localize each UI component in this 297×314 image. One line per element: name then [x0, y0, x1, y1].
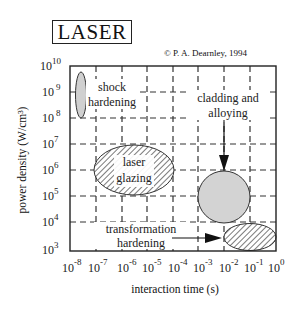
label-transformation: transformation — [106, 222, 177, 236]
region-transformation-hardening — [224, 224, 276, 251]
svg-text:10-6: 10-6 — [117, 257, 137, 275]
svg-text:10-1: 10-1 — [244, 257, 264, 275]
svg-text:109: 109 — [42, 82, 61, 99]
label-hardening-shock: hardening — [88, 95, 136, 109]
svg-text:100: 100 — [268, 257, 285, 275]
label-hardening-transformation: hardening — [117, 236, 165, 250]
svg-text:10-3: 10-3 — [193, 257, 213, 275]
label-cladding: cladding and — [197, 91, 259, 105]
svg-text:1010: 1010 — [40, 56, 62, 73]
svg-text:10-5: 10-5 — [142, 257, 162, 275]
svg-text:108: 108 — [42, 108, 61, 125]
svg-text:103: 103 — [42, 240, 59, 257]
label-glazing: glazing — [116, 171, 151, 185]
svg-text:107: 107 — [42, 134, 59, 151]
svg-text:106: 106 — [42, 160, 59, 177]
svg-text:10-8: 10-8 — [62, 257, 82, 275]
y-tick-labels: 1010 109 108 107 106 105 104 103 — [40, 56, 62, 257]
chart-canvas: shock hardening laser glazing cladding a… — [0, 0, 297, 314]
svg-text:10-7: 10-7 — [88, 257, 108, 275]
x-tick-labels: 10-8 10-7 10-6 10-5 10-4 10-3 10-2 10-1 … — [62, 257, 285, 275]
svg-text:10-4: 10-4 — [168, 257, 188, 275]
arrow-cladding-icon — [219, 122, 229, 171]
label-alloying: alloying — [208, 106, 247, 120]
region-cladding-alloying — [198, 171, 250, 223]
svg-text:10-2: 10-2 — [219, 257, 239, 275]
label-shock: shock — [98, 80, 126, 94]
label-laser: laser — [123, 155, 146, 169]
svg-text:105: 105 — [42, 186, 59, 203]
svg-text:104: 104 — [42, 212, 59, 229]
region-shock-hardening — [76, 72, 87, 118]
